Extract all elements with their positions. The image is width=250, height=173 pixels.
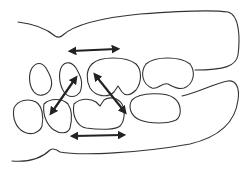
upper-tooth-1 — [30, 64, 52, 96]
diagonal-left-arrow — [52, 79, 75, 112]
lower-tooth-4 — [130, 94, 180, 123]
upper-tooth-2 — [60, 63, 82, 97]
dental-occlusion-diagram — [0, 0, 250, 173]
upper-horizontal-arrow — [72, 49, 116, 51]
upper-tooth-4 — [143, 58, 194, 89]
lower-tooth-1 — [13, 100, 42, 134]
upper-tooth-3 — [87, 58, 140, 96]
lower-horizontal-arrow — [74, 135, 122, 136]
upper-arch-outline — [18, 11, 239, 70]
